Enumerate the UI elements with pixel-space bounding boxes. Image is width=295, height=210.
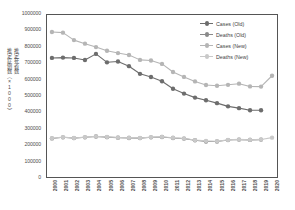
data-point xyxy=(215,101,219,105)
data-point xyxy=(149,75,153,79)
legend-marker-icon xyxy=(200,20,213,27)
data-point xyxy=(72,38,76,42)
data-point xyxy=(259,137,263,141)
x-axis-tick-label: 2018 xyxy=(253,180,258,191)
data-point xyxy=(160,135,164,139)
legend-marker-icon xyxy=(200,42,213,49)
data-point xyxy=(204,83,208,87)
data-point xyxy=(193,138,197,142)
y-axis-tick-label: 400000 xyxy=(25,110,41,115)
data-point xyxy=(61,55,65,59)
data-point xyxy=(259,84,263,88)
data-point xyxy=(171,87,175,91)
data-point xyxy=(50,136,54,140)
data-point xyxy=(237,82,241,86)
x-axis-tick-label: 2007 xyxy=(131,180,136,191)
data-point xyxy=(105,135,109,139)
x-axis-tick-label: 2002 xyxy=(75,180,80,191)
y-axis-tick-label: 600000 xyxy=(25,77,41,82)
data-point xyxy=(116,59,120,63)
x-axis-tick-label: 2003 xyxy=(86,180,91,191)
data-point xyxy=(149,58,153,62)
chart-legend: Cases (Old)Deaths (Old)Cases (New)Deaths… xyxy=(200,18,274,62)
x-axis-tick-label: 2011 xyxy=(175,180,180,191)
legend-item-cases-new[interactable]: Cases (New) xyxy=(200,40,274,51)
data-point xyxy=(127,53,131,57)
x-axis-tick-label: 2009 xyxy=(153,180,158,191)
data-point xyxy=(94,45,98,49)
data-point xyxy=(50,30,54,34)
data-point xyxy=(61,135,65,139)
data-point xyxy=(182,75,186,79)
data-point xyxy=(116,51,120,55)
data-point xyxy=(248,138,252,142)
y-axis-tick-label: 100000 xyxy=(25,159,41,164)
line-chart: 推定症例数（×1000） 推定死者数 100000090000080000070… xyxy=(0,0,295,210)
data-point xyxy=(83,58,87,62)
y-axis-tick-label: 900000 xyxy=(25,28,41,33)
data-point xyxy=(105,60,109,64)
x-axis-tick-label: 2012 xyxy=(186,180,191,191)
data-point xyxy=(182,136,186,140)
data-point xyxy=(226,83,230,87)
data-point xyxy=(204,139,208,143)
x-axis-tick-label: 2008 xyxy=(142,180,147,191)
legend-marker-icon xyxy=(200,53,213,60)
y-axis-ticks: 1000000900000800000700000600000500000400… xyxy=(0,14,44,178)
y-axis-tick-label: 1000000 xyxy=(22,11,41,16)
data-point xyxy=(94,134,98,138)
data-point xyxy=(138,72,142,76)
data-point xyxy=(226,104,230,108)
y-axis-tick-label: 800000 xyxy=(25,44,41,49)
legend-item-cases-old[interactable]: Cases (Old) xyxy=(200,18,274,29)
data-point xyxy=(72,136,76,140)
data-point xyxy=(248,84,252,88)
data-point xyxy=(270,74,274,78)
data-point xyxy=(105,49,109,53)
data-point xyxy=(193,79,197,83)
data-point xyxy=(127,64,131,68)
x-axis-tick-label: 2006 xyxy=(120,180,125,191)
data-point xyxy=(83,135,87,139)
x-axis-tick-label: 2000 xyxy=(53,180,58,191)
x-axis-tick-label: 2020 xyxy=(275,180,280,191)
data-point xyxy=(61,30,65,34)
data-point xyxy=(237,106,241,110)
data-point xyxy=(138,58,142,62)
x-axis-tick-label: 2017 xyxy=(242,180,247,191)
x-axis-tick-label: 2016 xyxy=(231,180,236,191)
data-point xyxy=(171,136,175,140)
x-axis-tick-label: 2015 xyxy=(220,180,225,191)
series-deaths-old xyxy=(50,134,263,143)
data-point xyxy=(94,52,98,56)
data-point xyxy=(83,42,87,46)
data-point xyxy=(138,136,142,140)
data-point xyxy=(50,56,54,60)
data-point xyxy=(215,84,219,88)
data-point xyxy=(204,98,208,102)
data-point xyxy=(182,91,186,95)
legend-item-deaths-new[interactable]: Deaths (New) xyxy=(200,51,274,62)
legend-label: Deaths (Old) xyxy=(216,32,246,38)
legend-item-deaths-old[interactable]: Deaths (Old) xyxy=(200,29,274,40)
x-axis-tick-label: 2019 xyxy=(264,180,269,191)
x-axis-tick-label: 2001 xyxy=(64,180,69,191)
data-point xyxy=(259,108,263,112)
data-point xyxy=(171,70,175,74)
legend-label: Cases (Old) xyxy=(216,21,244,27)
data-point xyxy=(116,135,120,139)
y-axis-tick-label: 0 xyxy=(38,175,41,180)
data-point xyxy=(193,95,197,99)
data-point xyxy=(270,135,274,139)
x-axis-ticks: 2000200120022003200420052006200720082009… xyxy=(46,180,278,208)
y-axis-tick-label: 500000 xyxy=(25,93,41,98)
legend-label: Deaths (New) xyxy=(216,54,248,60)
y-axis-tick-label: 200000 xyxy=(25,143,41,148)
data-point xyxy=(237,137,241,141)
legend-marker-icon xyxy=(200,31,213,38)
data-point xyxy=(149,135,153,139)
x-axis-tick-label: 2014 xyxy=(208,180,213,191)
x-axis-tick-label: 2004 xyxy=(97,180,102,191)
data-point xyxy=(160,79,164,83)
y-axis-tick-label: 300000 xyxy=(25,126,41,131)
